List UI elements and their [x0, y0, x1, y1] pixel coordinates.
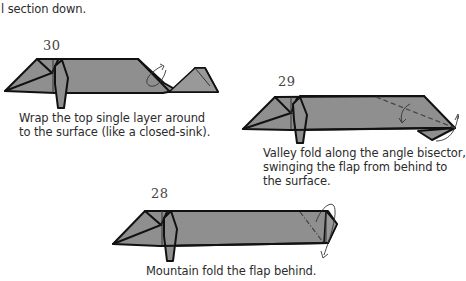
step-29-caption-line-1: Valley fold along the angle bisector, — [263, 146, 466, 161]
step-28-caption-line-1: Mountain fold the flap behind. — [146, 264, 316, 279]
step-30-caption-line-1: Wrap the top single layer around — [19, 111, 205, 126]
step-29-caption-line-2: swinging the flap from behind to — [263, 160, 447, 175]
step-29-diagram — [243, 96, 459, 143]
step-30-caption-line-2: to the surface (like a closed-sink). — [19, 125, 210, 140]
step-28-diagram — [113, 204, 337, 261]
step-30-diagram — [5, 59, 218, 108]
step-29-caption-line-3: the surface. — [263, 174, 331, 189]
